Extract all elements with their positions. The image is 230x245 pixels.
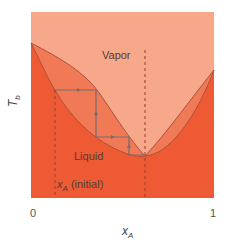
y-axis-label: Tb xyxy=(6,95,22,107)
y-axis-sub: b xyxy=(13,95,22,99)
x-tick-0: 0 xyxy=(30,207,36,219)
y-axis-main: T xyxy=(6,100,20,107)
vapor-label: Vapor xyxy=(102,49,131,61)
x-tick-1: 1 xyxy=(210,207,216,219)
x-axis-label: xA xyxy=(122,224,133,240)
liquid-label: Liquid xyxy=(74,150,103,162)
x-axis-sub: A xyxy=(128,231,133,240)
initial-composition-label: xA (initial) xyxy=(57,178,103,193)
initial-suffix: (initial) xyxy=(68,178,103,190)
